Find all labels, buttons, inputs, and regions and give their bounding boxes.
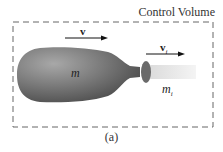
velocity-label-jet: vi xyxy=(160,41,167,56)
arrow-head-icon xyxy=(101,36,108,41)
mass-label-jet: mi xyxy=(162,82,173,98)
arrow-head-icon xyxy=(178,52,185,57)
velocity-label-body: v xyxy=(80,25,86,37)
mass-jet-symbol: m xyxy=(162,82,171,96)
jet-stream xyxy=(150,65,196,79)
velocity-jet-subscript: i xyxy=(166,48,168,56)
figure-caption: (a) xyxy=(0,130,223,145)
mass-label-body: m xyxy=(71,66,80,81)
nozzle-flange xyxy=(141,61,151,83)
mass-jet-subscript: i xyxy=(171,90,173,98)
